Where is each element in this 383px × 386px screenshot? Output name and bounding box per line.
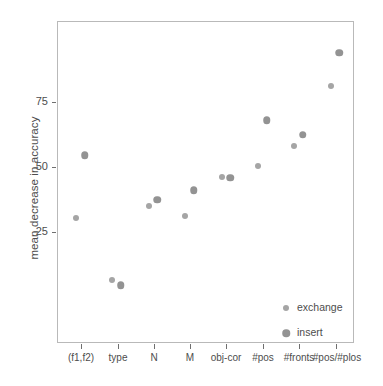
scatter-plot: mean decrease in accuracy 75 50 25 (f1,f… xyxy=(0,0,383,386)
data-point-insert-obj-cor xyxy=(226,174,234,182)
x-tick-label-5: #pos xyxy=(252,352,274,363)
x-tick-mark-4 xyxy=(226,344,227,349)
y-tick-label-25: 25 xyxy=(8,225,48,237)
data-point-insert-(f1,f2) xyxy=(81,152,89,160)
data-point-exchange-#fronts xyxy=(291,143,297,149)
y-tick-mark-50 xyxy=(52,167,56,168)
legend-label-exchange: exchange xyxy=(297,301,343,313)
exchange-marker-icon xyxy=(283,305,289,311)
insert-marker-icon xyxy=(282,329,290,337)
y-axis-title: mean decrease in accuracy xyxy=(28,88,40,288)
x-tick-mark-5 xyxy=(263,344,264,349)
data-point-exchange-N xyxy=(146,203,152,209)
data-point-exchange-#pos/#plos xyxy=(328,83,334,89)
data-point-insert-N xyxy=(154,196,162,204)
data-point-insert-M xyxy=(190,187,198,195)
x-tick-mark-2 xyxy=(154,344,155,349)
x-tick-label-0: (f1,f2) xyxy=(68,352,94,363)
data-point-exchange-(f1,f2) xyxy=(73,215,79,221)
data-point-exchange-#pos xyxy=(255,163,261,169)
x-tick-label-1: type xyxy=(109,352,128,363)
x-tick-mark-0 xyxy=(81,344,82,349)
data-point-insert-#fronts xyxy=(299,131,307,139)
y-tick-mark-75 xyxy=(52,102,56,103)
plot-panel xyxy=(57,21,354,343)
x-tick-label-6: #fronts xyxy=(284,352,315,363)
x-tick-label-3: M xyxy=(186,352,194,363)
x-tick-mark-3 xyxy=(190,344,191,349)
x-tick-label-4: obj-cor xyxy=(211,352,242,363)
data-point-exchange-obj-cor xyxy=(219,174,225,180)
x-tick-label-7: #pos/#plos xyxy=(313,352,361,363)
y-tick-mark-25 xyxy=(52,232,56,233)
x-tick-label-2: N xyxy=(150,352,157,363)
data-point-exchange-M xyxy=(182,213,188,219)
data-point-exchange-type xyxy=(109,277,115,283)
data-point-insert-type xyxy=(117,282,125,290)
data-point-insert-#pos xyxy=(263,116,271,124)
x-tick-mark-7 xyxy=(336,344,337,349)
y-tick-label-50: 50 xyxy=(8,160,48,172)
x-tick-mark-6 xyxy=(299,344,300,349)
x-tick-mark-1 xyxy=(118,344,119,349)
y-tick-label-75: 75 xyxy=(8,95,48,107)
data-point-insert-#pos/#plos xyxy=(336,49,344,57)
legend-label-insert: insert xyxy=(297,326,323,338)
